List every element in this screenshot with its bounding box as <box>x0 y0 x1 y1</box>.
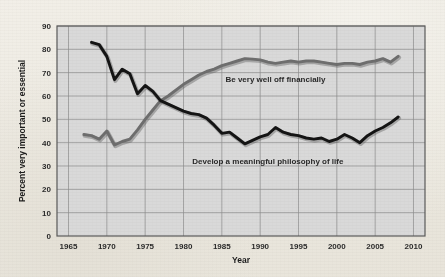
y-axis-tick-label: 60 <box>42 92 51 101</box>
x-axis-tick-label: 1985 <box>213 242 231 251</box>
y-axis-tick-label: 30 <box>42 162 51 171</box>
x-axis-tick-label: 2000 <box>328 242 346 251</box>
x-axis-tick-label: 1970 <box>98 242 116 251</box>
y-axis-title: Percent very important or essential <box>17 60 27 202</box>
y-axis-tick-label: 70 <box>42 69 51 78</box>
line-chart: 0102030405060708090196519701975198019851… <box>0 0 445 277</box>
x-axis-title: Year <box>232 255 251 265</box>
y-axis-tick-label: 20 <box>42 185 51 194</box>
x-axis-tick-label: 1995 <box>290 242 308 251</box>
y-axis-tick-label: 10 <box>42 209 51 218</box>
y-axis-tick-label: 50 <box>42 115 51 124</box>
series-annotation-1: Be very well off financially <box>225 75 326 84</box>
x-axis-tick-label: 2010 <box>405 242 423 251</box>
plot-area-background <box>57 26 425 236</box>
x-axis-tick-label: 1980 <box>175 242 193 251</box>
x-axis-tick-label: 1975 <box>136 242 154 251</box>
x-axis-tick-label: 2005 <box>366 242 384 251</box>
x-axis-tick-label: 1965 <box>60 242 78 251</box>
x-axis-tick-label: 1990 <box>251 242 269 251</box>
y-axis-tick-label: 90 <box>42 22 51 31</box>
y-axis-tick-label: 0 <box>47 232 52 241</box>
series-annotation-2: Develop a meaningful philosophy of life <box>192 157 344 166</box>
y-axis-tick-label: 80 <box>42 45 51 54</box>
y-axis-tick-label: 40 <box>42 139 51 148</box>
chart-figure: 0102030405060708090196519701975198019851… <box>0 0 445 277</box>
